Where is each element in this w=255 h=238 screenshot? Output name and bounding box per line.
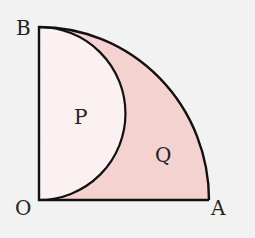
label-p: P <box>74 105 87 129</box>
quarter-circle-diagram: B O A P Q <box>0 0 255 238</box>
label-q: Q <box>155 143 171 167</box>
label-a: A <box>210 196 226 220</box>
label-b: B <box>16 16 31 40</box>
label-o: O <box>15 196 31 220</box>
